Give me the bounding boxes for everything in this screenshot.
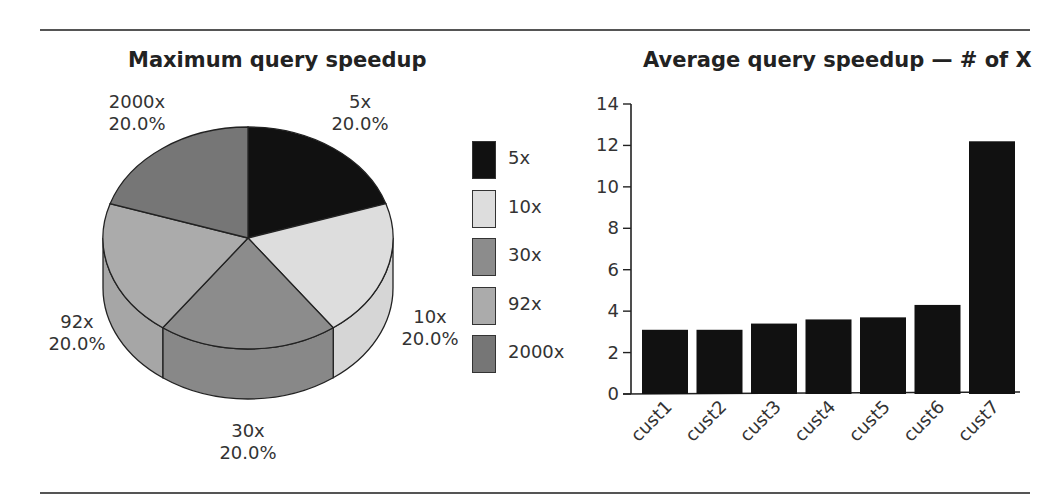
bar-cust4	[806, 319, 852, 394]
bar-cust7	[969, 141, 1015, 394]
x-tick-label: cust2	[681, 396, 731, 446]
y-tick-label: 4	[608, 300, 619, 321]
y-tick-label: 14	[596, 93, 619, 114]
y-tick-label: 2	[608, 342, 619, 363]
x-tick-label: cust5	[844, 396, 894, 446]
bar-chart: 02468101214cust1cust2cust3cust4cust5cust…	[0, 0, 1061, 496]
bar-cust3	[751, 324, 797, 394]
bar-cust6	[915, 305, 961, 394]
bar-cust2	[697, 330, 743, 394]
x-tick-label: cust3	[735, 396, 785, 446]
x-tick-label: cust7	[953, 396, 1003, 446]
y-tick-label: 10	[596, 176, 619, 197]
bar-cust1	[642, 330, 688, 394]
bar-cust5	[860, 317, 906, 394]
y-tick-label: 0	[608, 383, 619, 404]
x-tick-label: cust1	[626, 396, 676, 446]
y-tick-label: 8	[608, 217, 619, 238]
y-tick-label: 12	[596, 134, 619, 155]
y-tick-label: 6	[608, 259, 619, 280]
x-tick-label: cust6	[899, 396, 949, 446]
x-tick-label: cust4	[790, 396, 840, 446]
